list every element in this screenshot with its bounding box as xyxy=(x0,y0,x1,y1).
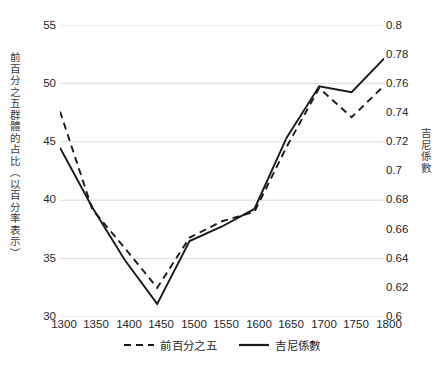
series-line-gini xyxy=(60,59,384,304)
right-axis-tick-0.72: 0.72 xyxy=(386,135,420,147)
right-axis-tick-0.78: 0.78 xyxy=(386,48,420,60)
legend-dashed-line-icon xyxy=(124,340,154,350)
right-axis-tick-0.74: 0.74 xyxy=(386,106,420,118)
right-axis-title: 吉尼係數 xyxy=(419,128,431,233)
x-axis-tick-1400: 1400 xyxy=(112,318,146,330)
right-axis-tick-0.68: 0.68 xyxy=(386,193,420,205)
right-axis-tick-0.66: 0.66 xyxy=(386,223,420,235)
left-axis-tick-50: 50 xyxy=(30,77,56,89)
x-axis-tick-1500: 1500 xyxy=(177,318,211,330)
x-axis-tick-1350: 1350 xyxy=(79,318,113,330)
left-axis-tick-45: 45 xyxy=(30,135,56,147)
legend-solid-line-icon xyxy=(239,340,269,350)
x-axis-tick-1750: 1750 xyxy=(339,318,373,330)
legend-item-top5[interactable]: 前百分之五 xyxy=(124,337,217,353)
plot-area xyxy=(60,25,384,317)
left-axis-tick-40: 40 xyxy=(30,193,56,205)
chart-legend: 前百分之五 吉尼係數 xyxy=(0,337,445,353)
x-axis-tick-1550: 1550 xyxy=(209,318,243,330)
left-axis-tick-55: 55 xyxy=(30,19,56,31)
x-axis-tick-1300: 1300 xyxy=(47,318,81,330)
legend-label-top5: 前百分之五 xyxy=(160,337,217,353)
line-chart: 前百分之五群體的占比（以百分率表示） 吉尼係數 55 50 45 40 35 3… xyxy=(0,0,445,366)
x-axis-tick-1650: 1650 xyxy=(274,318,308,330)
x-axis-tick-1800: 1800 xyxy=(372,318,406,330)
right-axis-tick-0.64: 0.64 xyxy=(386,252,420,264)
x-axis-tick-1450: 1450 xyxy=(144,318,178,330)
left-axis-title: 前百分之五群體的占比（以百分率表示） xyxy=(8,52,20,302)
left-axis-tick-35: 35 xyxy=(30,252,56,264)
right-axis-tick-0.76: 0.76 xyxy=(386,77,420,89)
x-axis-tick-1700: 1700 xyxy=(307,318,341,330)
series-line-top5 xyxy=(60,86,384,288)
plot-svg xyxy=(60,25,384,317)
right-axis-tick-0.8: 0.8 xyxy=(386,19,420,31)
legend-label-gini: 吉尼係數 xyxy=(275,337,321,353)
right-axis-tick-0.7: 0.7 xyxy=(386,164,420,176)
legend-item-gini[interactable]: 吉尼係數 xyxy=(239,337,321,353)
gridlines xyxy=(60,25,384,317)
x-axis-tick-1600: 1600 xyxy=(242,318,276,330)
right-axis-tick-0.62: 0.62 xyxy=(386,281,420,293)
